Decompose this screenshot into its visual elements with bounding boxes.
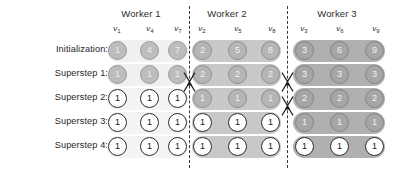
row-label-superstep-4: Superstep 4: xyxy=(55,140,108,150)
cell-r2-c1: 1 xyxy=(140,89,159,108)
vertex-label-v6-sub: 6 xyxy=(340,28,343,34)
cell-r0-c2: 7 xyxy=(168,41,187,60)
vertex-label-v4: v4 xyxy=(140,24,160,33)
vertex-label-v5-sub: 5 xyxy=(238,28,241,34)
cell-r1-c0: 1 xyxy=(108,65,127,84)
cell-r0-c5: 8 xyxy=(261,41,280,60)
vertex-label-v3-sub: 3 xyxy=(304,28,307,34)
vertex-label-v1-sub: 1 xyxy=(117,28,120,34)
cell-r0-c4: 5 xyxy=(228,41,247,60)
vertex-label-v9: v9 xyxy=(366,24,386,33)
worker-title-3: Worker 3 xyxy=(300,8,374,19)
cell-r4-c0: 1 xyxy=(108,137,127,156)
cell-r1-c7: 3 xyxy=(330,65,349,84)
vertex-label-v3: v3 xyxy=(294,24,314,33)
cell-r4-c2: 1 xyxy=(168,137,187,156)
transfer-arrow-divider1-ss1-ss2 xyxy=(181,72,198,92)
transfer-arrow-divider2-ss1-ss2 xyxy=(279,72,296,92)
cell-r4-c4: 1 xyxy=(228,137,247,156)
cell-r3-c4: 1 xyxy=(228,113,247,132)
vertex-label-v9-sub: 9 xyxy=(376,28,379,34)
cell-r3-c8: 1 xyxy=(365,113,384,132)
cell-r4-c8: 1 xyxy=(365,137,384,156)
cell-r3-c5: 1 xyxy=(261,113,280,132)
vertex-label-v8: v8 xyxy=(262,24,282,33)
cell-r0-c0: 1 xyxy=(108,41,127,60)
row-label-superstep-3: Superstep 3: xyxy=(55,116,108,126)
row-label-initialization: Initialization: xyxy=(56,44,108,54)
cell-r3-c6: 1 xyxy=(295,113,314,132)
vertex-label-v4-sub: 4 xyxy=(150,28,153,34)
vertex-label-v8-sub: 8 xyxy=(272,28,275,34)
cell-r3-c7: 1 xyxy=(330,113,349,132)
cell-r2-c7: 2 xyxy=(330,89,349,108)
vertex-label-v5: v5 xyxy=(228,24,248,33)
cell-r2-c4: 1 xyxy=(228,89,247,108)
worker-title-2: Worker 2 xyxy=(190,8,264,19)
cell-r2-c0: 1 xyxy=(108,89,127,108)
vertex-label-v6: v6 xyxy=(330,24,350,33)
cell-r4-c1: 1 xyxy=(140,137,159,156)
cell-r1-c1: 1 xyxy=(140,65,159,84)
vertex-label-v7-sub: 7 xyxy=(178,28,181,34)
vertex-label-v7: v7 xyxy=(168,24,188,33)
cell-r1-c6: 3 xyxy=(295,65,314,84)
row-label-superstep-2: Superstep 2: xyxy=(55,92,108,102)
bsp-superstep-figure: Worker 1 Worker 2 Worker 3 v1 v4 v7 v2 v… xyxy=(0,0,400,174)
row-label-column: Initialization: Superstep 1: Superstep 2… xyxy=(0,0,108,174)
cell-r3-c2: 1 xyxy=(168,113,187,132)
vertex-label-v2-sub: 2 xyxy=(202,28,205,34)
cell-r1-c8: 3 xyxy=(365,65,384,84)
cell-r4-c3: 1 xyxy=(193,137,212,156)
cell-r0-c8: 9 xyxy=(365,41,384,60)
cell-r0-c3: 2 xyxy=(193,41,212,60)
vertex-label-v1: v1 xyxy=(107,24,127,33)
worker-title-1: Worker 1 xyxy=(108,8,174,19)
cell-r2-c5: 1 xyxy=(261,89,280,108)
cell-r1-c5: 2 xyxy=(261,65,280,84)
cell-r3-c1: 1 xyxy=(140,113,159,132)
cell-r4-c7: 1 xyxy=(330,137,349,156)
cell-r3-c0: 1 xyxy=(108,113,127,132)
cell-r4-c6: 1 xyxy=(295,137,314,156)
cell-r0-c6: 3 xyxy=(295,41,314,60)
cell-r0-c1: 4 xyxy=(140,41,159,60)
cell-r2-c6: 2 xyxy=(295,89,314,108)
cell-r3-c3: 1 xyxy=(193,113,212,132)
cell-r2-c8: 2 xyxy=(365,89,384,108)
transfer-arrow-divider2-ss2-ss3 xyxy=(279,96,296,116)
cell-r4-c5: 1 xyxy=(261,137,280,156)
vertex-label-v2: v2 xyxy=(192,24,212,33)
cell-r0-c7: 6 xyxy=(330,41,349,60)
cell-r1-c4: 2 xyxy=(228,65,247,84)
row-label-superstep-1: Superstep 1: xyxy=(55,68,108,78)
